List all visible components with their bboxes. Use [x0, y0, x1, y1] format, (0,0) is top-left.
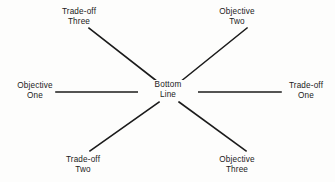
node-label-line-1: Objective: [206, 155, 268, 165]
spoke-to-objective-three: [179, 102, 246, 151]
node-label-objective-one: Objective One: [6, 81, 64, 100]
radial-spoke-diagram: Trade-off Three Objective Two Objective …: [0, 0, 335, 182]
node-label-line-1: Trade-off: [48, 7, 110, 17]
center-node-line-1: Bottom: [138, 80, 198, 90]
node-label-line-2: One: [6, 91, 64, 101]
node-label-line-2: One: [277, 91, 335, 101]
node-label-line-1: Trade-off: [52, 155, 114, 165]
node-label-line-2: Three: [48, 17, 110, 27]
spoke-to-objective-two: [180, 28, 247, 82]
node-label-trade-off-two: Trade-off Two: [52, 155, 114, 174]
node-label-objective-two: Objective Two: [206, 7, 268, 26]
node-label-line-1: Objective: [6, 81, 64, 91]
node-label-line-1: Trade-off: [277, 81, 335, 91]
node-label-line-2: Three: [206, 165, 268, 175]
node-label-line-2: Two: [52, 165, 114, 175]
spoke-to-trade-off-three: [89, 28, 158, 82]
node-label-line-2: Two: [206, 17, 268, 27]
center-node-bottom-line: Bottom Line: [138, 80, 198, 99]
node-label-line-1: Objective: [206, 7, 268, 17]
spoke-to-trade-off-two: [90, 102, 159, 151]
node-label-objective-three: Objective Three: [206, 155, 268, 174]
node-label-trade-off-three: Trade-off Three: [48, 7, 110, 26]
node-label-trade-off-one: Trade-off One: [277, 81, 335, 100]
center-node-line-2: Line: [138, 90, 198, 100]
